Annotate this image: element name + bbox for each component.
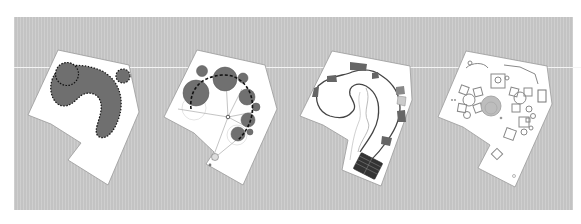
site-plan-detailed bbox=[0, 0, 581, 224]
